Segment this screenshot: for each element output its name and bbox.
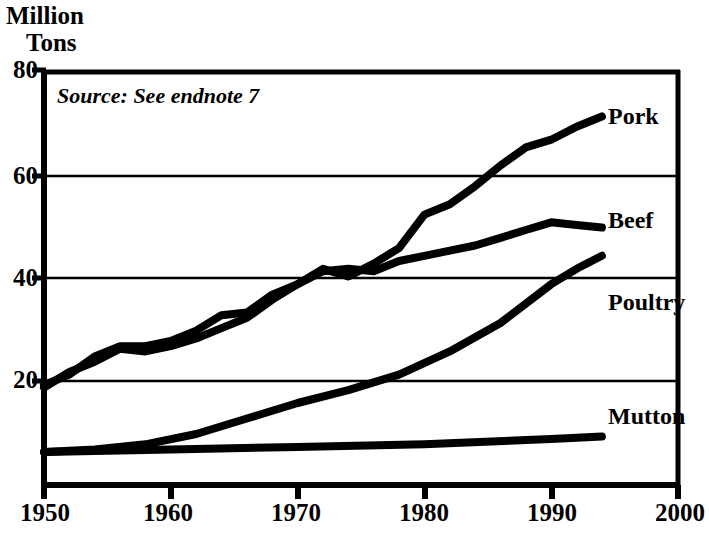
- series-line-beef: [44, 222, 602, 385]
- series-line-poultry: [44, 256, 602, 452]
- data-series-group: [44, 117, 602, 453]
